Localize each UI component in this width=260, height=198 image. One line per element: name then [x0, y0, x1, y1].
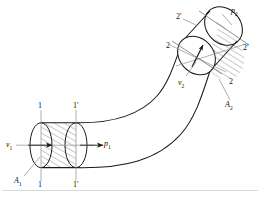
- section-2prime-upper-label: 2′: [176, 13, 182, 21]
- section-2prime-lower-label: 2′: [243, 44, 249, 52]
- section-1prime-top-label: 1′: [73, 102, 79, 110]
- inlet-pressure-label: p1: [104, 140, 111, 150]
- outlet-velocity-label: v2: [178, 79, 184, 89]
- outlet-pressure-label: p2: [231, 7, 238, 17]
- diagram-canvas: [0, 0, 260, 198]
- section-1prime-bottom-label: 1′: [73, 181, 79, 189]
- section-2-lower-label: 2: [229, 78, 233, 86]
- inlet-area-label: A1: [14, 177, 22, 187]
- section-1-bottom-label: 1: [38, 181, 42, 189]
- pipe-wall-upper: [41, 41, 183, 123]
- section-2prime-upper-leader: [183, 19, 196, 25]
- pipe-control-volume-figure: v1 p1 A1 1 1 1′ 1′ 2′ p2 2 2′ 2 v2 A2: [0, 0, 260, 198]
- outlet-area-label: A2: [225, 101, 233, 111]
- section-1-top-label: 1: [38, 102, 42, 110]
- inlet-velocity-label: v1: [6, 141, 12, 151]
- section-2-upper-label: 2: [166, 42, 170, 50]
